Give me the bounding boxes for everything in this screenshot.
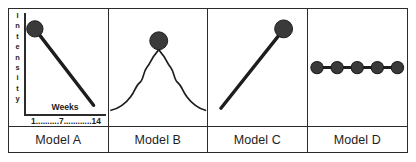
caption-model-b: Model B — [109, 127, 209, 152]
plot-model-b — [109, 9, 208, 126]
panel-model-a: I n t e n s i t y Weeks 1..........7....… — [9, 9, 109, 126]
panel-row: I n t e n s i t y Weeks 1..........7....… — [9, 9, 407, 126]
data-point-marker — [330, 61, 342, 73]
trend-line-increasing — [221, 32, 282, 108]
trend-line-decreasing — [35, 29, 94, 105]
trend-line-peak — [110, 48, 205, 111]
data-point-marker — [310, 61, 322, 73]
plot-model-a — [9, 9, 108, 126]
panel-model-b — [109, 9, 209, 126]
caption-model-a: Model A — [9, 127, 109, 152]
caption-model-d: Model D — [308, 127, 408, 152]
data-point-marker — [27, 21, 43, 37]
data-point-marker — [275, 20, 293, 38]
model-comparison-figure: I n t e n s i t y Weeks 1..........7....… — [8, 8, 408, 153]
plot-model-c — [208, 9, 307, 126]
panel-model-d — [308, 9, 408, 126]
data-point-marker — [391, 61, 403, 73]
data-point-marker — [351, 61, 363, 73]
caption-model-c: Model C — [208, 127, 308, 152]
data-point-marker — [149, 32, 167, 50]
panel-model-c — [208, 9, 308, 126]
caption-row: Model A Model B Model C Model D — [9, 126, 407, 152]
plot-model-d — [308, 9, 408, 126]
data-point-marker — [371, 61, 383, 73]
